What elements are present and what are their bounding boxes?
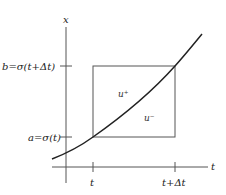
diagram-canvas: x t t t+Δt b=σ(t+Δt) a=σ(t) u⁺ u⁻ [0,0,226,195]
tick-label-b: b=σ(t+Δt) [2,61,55,72]
tick-label-t-plus-dt: t+Δt [162,177,187,188]
horizontal-axis-label: t [211,161,216,172]
tick-label-a: a=σ(t) [28,132,61,143]
region-label-u-plus: u⁺ [118,89,129,99]
region-label-u-minus: u⁻ [144,113,155,123]
vertical-axis-label: x [63,14,69,25]
region-box [93,66,175,137]
tick-label-t: t [90,177,95,188]
